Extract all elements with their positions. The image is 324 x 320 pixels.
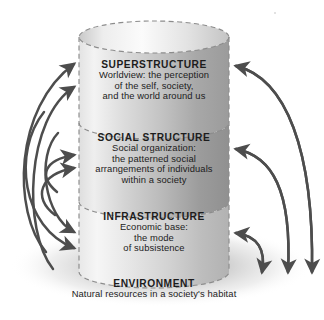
tier-superstructure-block: SUPERSTRUCTURE Worldview: the perception… — [79, 59, 229, 102]
tier-social-structure-line-4: within a society — [69, 175, 239, 186]
tier-social-structure-block: SOCIAL STRUCTURE Social organization: th… — [69, 132, 239, 186]
diagram-canvas: SUPERSTRUCTURE Worldview: the perception… — [0, 0, 324, 320]
tier-superstructure-line-3: and the world around us — [79, 91, 229, 102]
scan-speck — [274, 12, 276, 14]
tier-infrastructure-line-3: of subsistence — [79, 243, 229, 254]
base-environment-block: ENVIRONMENT Natural resources in a socie… — [22, 278, 286, 300]
tier-infrastructure-block: INFRASTRUCTURE Economic base: the mode o… — [79, 211, 229, 254]
base-environment-line-1: Natural resources in a society's habitat — [22, 289, 286, 300]
